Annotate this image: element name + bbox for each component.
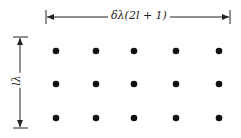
lattice-dot bbox=[131, 48, 138, 55]
lattice-dot bbox=[53, 48, 60, 55]
dot-lattice-diagram: δλ(2l + 1) lλ bbox=[0, 0, 241, 138]
lattice-dot bbox=[53, 81, 60, 88]
lattice-dot bbox=[173, 81, 180, 88]
lattice-dot bbox=[93, 81, 100, 88]
height-label: lλ bbox=[10, 73, 23, 88]
dot-grid bbox=[53, 48, 223, 122]
lattice-dot bbox=[216, 48, 223, 55]
lattice-dot bbox=[216, 115, 223, 122]
lattice-dot bbox=[53, 115, 60, 122]
width-label: δλ(2l + 1) bbox=[108, 9, 170, 22]
lattice-dot bbox=[173, 115, 180, 122]
lattice-dot bbox=[173, 48, 180, 55]
lattice-dot bbox=[131, 81, 138, 88]
lattice-dot bbox=[93, 48, 100, 55]
lattice-dot bbox=[131, 115, 138, 122]
lattice-dot bbox=[93, 115, 100, 122]
lattice-dot bbox=[216, 81, 223, 88]
